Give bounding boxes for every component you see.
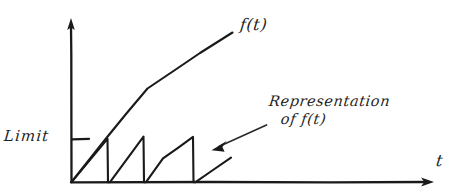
curve-f-of-t bbox=[72, 33, 233, 183]
representation-label-line-2: of f(t) bbox=[280, 111, 389, 128]
representation-label-line-1: Representation bbox=[268, 93, 391, 109]
graph-drawing bbox=[0, 0, 467, 195]
limit-tick-mark bbox=[72, 139, 89, 140]
hand-drawn-graph-figure: Limit f(t) Representationof f(t) t bbox=[0, 0, 467, 195]
arrow-pointer-icon bbox=[212, 141, 227, 152]
limit-axis-label: Limit bbox=[3, 128, 50, 145]
annotation-arrow-line bbox=[219, 125, 267, 147]
representation-annotation-label: Representationof f(t) bbox=[266, 93, 391, 127]
function-curve-label: f(t) bbox=[239, 16, 268, 34]
y-axis-line bbox=[71, 26, 72, 182]
curve-representation-sawtooth bbox=[72, 137, 232, 183]
